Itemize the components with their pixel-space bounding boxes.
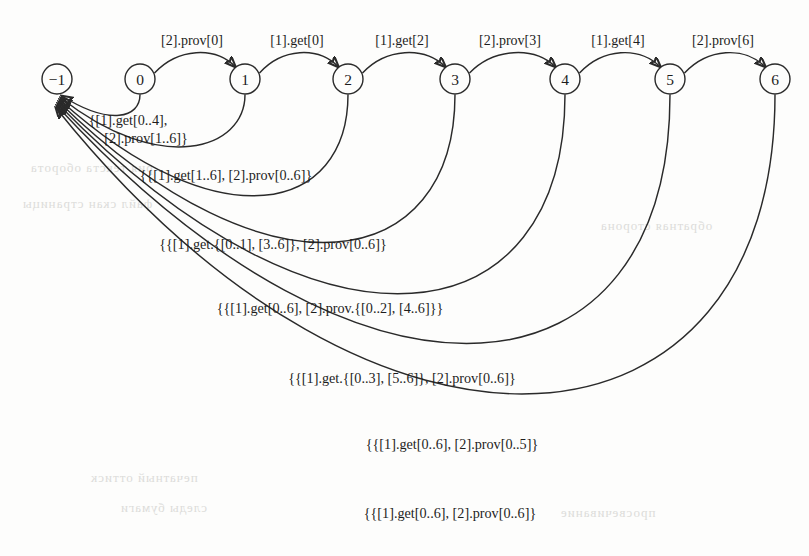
forward-edge-label-n2-to-n3: [1].get[2]: [375, 33, 428, 48]
return-arc-label-n5-to-n-1: {{[1].get[0..6], [2].prov[0..5]}: [366, 436, 539, 452]
edge-label-layer: [2].prov[0][1].get[0][1].get[2][2].prov[…: [89, 33, 754, 521]
forward-edge-n2-to-n3: [363, 53, 446, 73]
node-n4[interactable]: 4: [550, 64, 580, 94]
node-n5[interactable]: 5: [655, 64, 685, 94]
node-label-n4: 4: [561, 71, 569, 88]
return-arc-label-n4-to-n-1: {{[1].get.{[0..3], [5..6]}, [2].prov[0..…: [288, 370, 516, 386]
forward-edge-n0-to-n1: [155, 53, 236, 73]
node-n6[interactable]: 6: [760, 64, 790, 94]
return-arc-label-n3-to-n-1: {{[1].get[0..6], [2].prov.{[0..2], [4..6…: [217, 300, 444, 316]
return-arc-label-n0-to-n-1: {[1].get[0..4],[2].prov[1..6]}: [89, 112, 188, 146]
forward-edge-label-n5-to-n6: [2].prov[6]: [692, 33, 754, 48]
node-label-n5: 5: [666, 71, 674, 88]
node-label-n6: 6: [771, 71, 779, 88]
transition-graph: −10123456 [2].prov[0][1].get[0][1].get[2…: [0, 0, 809, 556]
return-arc-label-n2-to-n-1: {{[1].get.{[0..1], [3..6]}, [2].prov[0..…: [159, 236, 387, 252]
forward-edge-label-n4-to-n5: [1].get[4]: [591, 33, 644, 48]
forward-edge-n3-to-n4: [470, 53, 556, 73]
return-arc-label-n1-to-n-1: {{[1].get[1..6], [2].prov[0..6]}: [140, 167, 313, 183]
node-n3[interactable]: 3: [440, 64, 470, 94]
forward-edge-label-n3-to-n4: [2].prov[3]: [479, 33, 541, 48]
node-n2[interactable]: 2: [333, 64, 363, 94]
node-n-1[interactable]: −1: [42, 64, 72, 94]
node-label-n-1: −1: [49, 71, 66, 88]
node-label-n2: 2: [344, 71, 352, 88]
forward-edge-n1-to-n2: [260, 53, 339, 73]
figure-canvas: рия текста оборотафайл скан страницыобра…: [0, 0, 809, 556]
node-label-n1: 1: [241, 71, 249, 88]
forward-edge-n5-to-n6: [685, 53, 766, 73]
return-arc-label-n6-to-n-1: {{[1].get[0..6], [2].prov[0..6]}: [364, 505, 537, 521]
forward-edge-label-n0-to-n1: [2].prov[0]: [161, 33, 223, 48]
forward-edge-label-n1-to-n2: [1].get[0]: [270, 33, 323, 48]
node-label-n0: 0: [136, 71, 144, 88]
node-n0[interactable]: 0: [125, 64, 155, 94]
forward-edge-n4-to-n5: [580, 53, 661, 73]
node-label-n3: 3: [451, 71, 459, 88]
node-n1[interactable]: 1: [230, 64, 260, 94]
node-layer: −10123456: [42, 64, 790, 94]
